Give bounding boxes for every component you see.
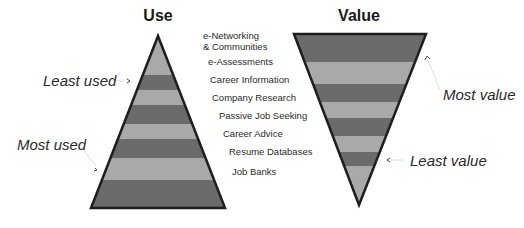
use-band <box>110 139 205 158</box>
value-band <box>312 84 405 102</box>
value-band <box>319 102 399 118</box>
most-used-callout: Most used <box>17 136 86 153</box>
value-pyramid <box>293 34 425 205</box>
value-band <box>304 62 414 84</box>
most-value-leader-line <box>428 60 440 90</box>
use-band <box>124 105 193 124</box>
use-band <box>131 90 185 105</box>
category-label-job-banks: Job Banks <box>232 166 276 177</box>
most-used-arrow-icon <box>94 168 97 171</box>
least-value-callout: Least value <box>410 152 487 169</box>
use-band <box>143 36 173 75</box>
category-label-line: e-Networking <box>203 30 267 41</box>
category-label-e-networking: e-Networking & Communities <box>203 30 267 52</box>
category-label-company-research: Company Research <box>212 92 296 103</box>
value-band <box>332 136 385 152</box>
category-label-e-assessments: e-Assessments <box>208 56 273 67</box>
most-value-arrow-icon <box>425 56 430 60</box>
least-value-arrow-icon <box>387 158 390 162</box>
use-band <box>137 75 179 90</box>
use-band <box>102 158 214 180</box>
value-title: Value <box>338 7 380 25</box>
value-band <box>325 118 392 136</box>
value-band <box>344 166 374 205</box>
use-title: Use <box>143 7 172 25</box>
category-label-career-advice: Career Advice <box>223 128 283 139</box>
use-band <box>91 180 225 208</box>
use-band <box>118 124 198 139</box>
value-band <box>293 34 425 62</box>
least-used-callout: Least used <box>43 72 116 89</box>
category-label-line: & Communities <box>203 41 267 52</box>
category-label-career-information: Career Information <box>210 74 289 85</box>
most-value-callout: Most value <box>443 86 516 103</box>
least-used-arrow-icon <box>127 79 130 83</box>
category-label-passive-job-seeking: Passive Job Seeking <box>219 110 307 121</box>
category-label-resume-databases: Resume Databases <box>229 146 312 157</box>
use-pyramid <box>91 36 225 208</box>
